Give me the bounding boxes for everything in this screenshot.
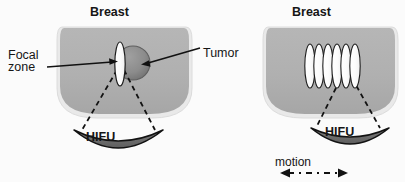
label-tumor: Tumor bbox=[203, 47, 239, 59]
arrow-head-left bbox=[280, 169, 290, 178]
figure-canvas: Breast Breast Focal zone Tumor HIFU HIFU… bbox=[0, 0, 405, 182]
focal-zone-ellipse bbox=[115, 42, 125, 86]
diagram-graphics bbox=[0, 0, 405, 182]
label-focal-zone: Focal zone bbox=[8, 49, 39, 73]
focal-zone-ellipse bbox=[350, 44, 360, 88]
arrow-head-right bbox=[338, 169, 348, 178]
label-motion: motion bbox=[275, 156, 311, 168]
label-hifu-left: HIFU bbox=[86, 131, 115, 143]
left-panel-graphics bbox=[47, 27, 200, 148]
label-focal-zone-line2: zone bbox=[8, 61, 39, 73]
motion-arrow bbox=[280, 169, 348, 178]
label-breast-left: Breast bbox=[90, 6, 129, 18]
label-breast-right: Breast bbox=[292, 6, 331, 18]
label-hifu-right: HIFU bbox=[325, 126, 354, 138]
